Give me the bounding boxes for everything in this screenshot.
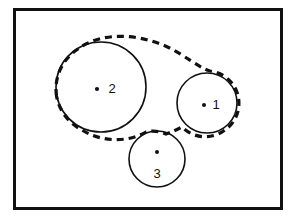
venn-circles-diagram: 2 1 3 [0, 0, 296, 220]
circle-2-label: 2 [108, 81, 115, 96]
figure-container: 2 1 3 [0, 0, 296, 220]
circle-2-center-dot [95, 87, 99, 91]
circle-1-center-dot [202, 103, 206, 107]
circle-3-label: 3 [153, 166, 160, 181]
figure-background [0, 0, 296, 220]
circle-1-label: 1 [212, 97, 219, 112]
circle-3-center-dot [155, 150, 159, 154]
